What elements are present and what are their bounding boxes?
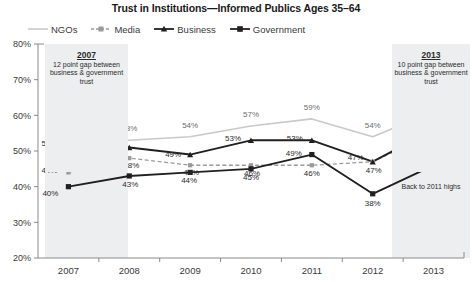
y-tick-label: 60% [13,111,31,121]
data-label-business-2011: 53% [287,134,303,143]
annotation-2007: 2007 12 point gap between business & gov… [45,44,128,172]
annotation-2007-body: 12 point gap between business & governme… [45,61,128,86]
series-marker-government [66,184,71,189]
data-label-media-2011: 46% [304,169,320,178]
x-tick-label: 2013 [423,265,444,276]
x-tick-label: 2012 [362,265,383,276]
data-label-ngos-2011: 59% [304,103,320,112]
data-label-government-2009: 44% [181,176,197,185]
chart-container: Trust in Institutions—Informed Publics A… [0,0,472,282]
data-label-ngos-2010: 57% [243,110,259,119]
x-tick-label: 2009 [180,265,201,276]
data-label-government-2010: 45% [243,173,259,182]
series-marker-media [188,163,192,167]
annotation-2013-title: 2013 [392,50,470,60]
data-label-government-2008: 43% [122,180,138,189]
series-marker-government [127,173,132,178]
x-tick-label: 2008 [119,265,140,276]
data-label-business-2009: 49% [165,150,181,159]
annotation-note-body: Back to 2011 highs [401,183,460,190]
annotation-2013: 2013 10 point gap between business & gov… [392,44,470,172]
annotation-back-to-2011-highs: Back to 2011 highs [400,183,462,191]
y-tick-label: 20% [13,253,31,263]
data-label-business-2010: 53% [225,134,241,143]
y-tick-label: 50% [13,146,31,156]
data-label-government-2011: 49% [286,149,302,158]
series-marker-media [310,163,314,167]
y-tick-label: 30% [13,218,31,228]
x-axis-ticks: 2007200820092010201120122013 [58,258,444,276]
annotation-2013-body: 10 point gap between business & governme… [392,61,470,86]
series-marker-government [370,191,375,196]
y-tick-label: 70% [13,75,31,85]
data-label-government-2007: 40% [42,189,58,198]
annotation-2007-title: 2007 [45,50,128,60]
y-tick-label: 40% [13,182,31,192]
y-axis-ticks: 20%30%40%50%60%70%80% [13,39,38,263]
data-label-media-2012: 47% [366,166,382,175]
data-label-ngos-2009: 54% [182,121,198,130]
data-label-ngos-2012: 54% [365,121,381,130]
x-tick-label: 2007 [58,265,79,276]
x-tick-label: 2010 [240,265,261,276]
series-marker-government [309,152,314,157]
data-label-government-2012: 38% [365,199,381,208]
x-tick-label: 2011 [302,265,322,276]
y-tick-label: 80% [13,39,31,49]
data-label-business-2012: 47% [348,153,364,162]
